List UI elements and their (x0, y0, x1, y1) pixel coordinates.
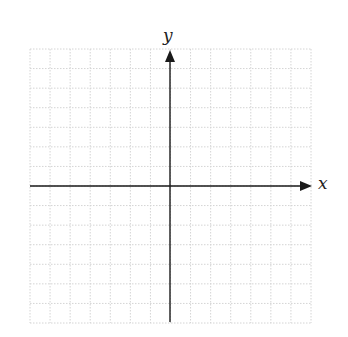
y-axis-label: y (163, 27, 173, 44)
x-axis-arrow-icon (300, 181, 312, 191)
x-axis-label: x (318, 175, 328, 192)
coordinate-plane (0, 0, 348, 337)
y-axis-arrow-icon (165, 50, 175, 62)
